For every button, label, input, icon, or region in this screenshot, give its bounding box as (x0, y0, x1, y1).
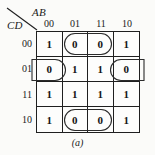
row-header-1: 01 (10, 57, 34, 83)
kmap-cell-r0c0: 1 (37, 32, 63, 57)
row-variable-label: CD (7, 20, 23, 31)
kmap-cell-r1c0: 0 (37, 57, 63, 82)
kmap-cell-r0c3: 1 (114, 32, 140, 57)
kmap-cell-r3c0: 1 (37, 107, 63, 132)
row-header-2: 11 (10, 82, 34, 108)
kmap-cell-r0c1: 0 (63, 32, 89, 57)
row-header-0: 00 (10, 31, 34, 57)
column-variable-label: AB (32, 7, 46, 18)
kmap-cell-r2c0: 1 (37, 82, 63, 107)
figure-karnaugh-map: AB CD 00 01 11 10 00 01 11 10 1 0 0 1 0 … (0, 0, 155, 155)
figure-caption: (a) (0, 137, 155, 148)
row-header-3: 10 (10, 108, 34, 134)
kmap-grid: 1 0 0 1 0 1 1 0 1 1 1 1 1 0 0 1 (36, 31, 140, 133)
column-header-2: 11 (88, 18, 114, 30)
kmap-cell-r2c2: 1 (88, 82, 114, 107)
kmap-cell-r3c3: 1 (114, 107, 140, 132)
kmap-cell-r2c1: 1 (63, 82, 89, 107)
column-header-1: 01 (62, 18, 88, 30)
row-header-column: 00 01 11 10 (10, 31, 34, 133)
kmap-cell-r3c2: 0 (88, 107, 114, 132)
kmap-cell-r1c1: 1 (63, 57, 89, 82)
kmap-cell-r1c3: 0 (114, 57, 140, 82)
column-header-row: 00 01 11 10 (36, 18, 140, 30)
kmap-cell-r0c2: 0 (88, 32, 114, 57)
column-header-0: 00 (36, 18, 62, 30)
kmap-cell-r1c2: 1 (88, 57, 114, 82)
column-header-3: 10 (114, 18, 140, 30)
kmap-cell-r3c1: 0 (63, 107, 89, 132)
kmap-cell-r2c3: 1 (114, 82, 140, 107)
kmap-grid-wrapper: 1 0 0 1 0 1 1 0 1 1 1 1 1 0 0 1 (36, 31, 140, 133)
